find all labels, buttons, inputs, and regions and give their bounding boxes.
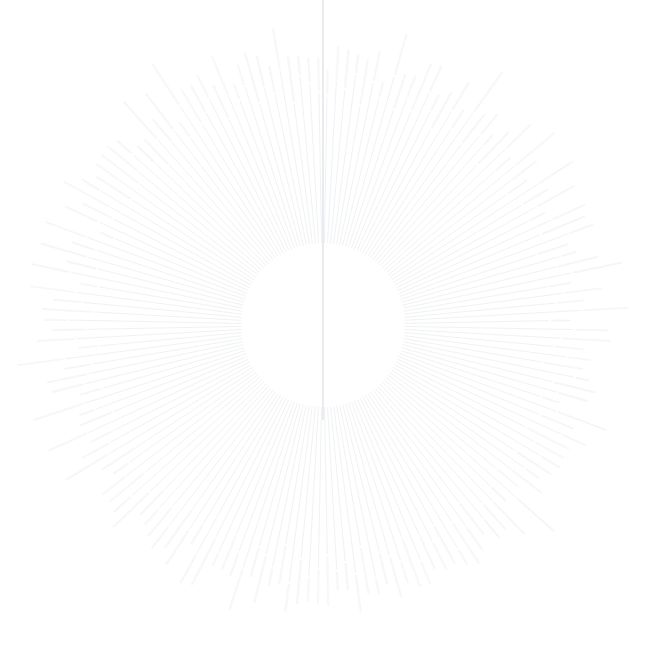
- leaf-label: aaaaaaaaaaaaaaaaaaa: [316, 57, 321, 91]
- figure-root: aaaaaaaaaaaaaaaaaaaaaaaaaaaaaaaaaaaaaaaa…: [0, 0, 658, 651]
- chart-background: [0, 0, 658, 651]
- leaf-label: aaaaaaaaaaa: [551, 318, 571, 322]
- leaf-label: aaaaaaaaaaaaaaaaaaa: [575, 327, 609, 332]
- leaf-label: aaaaaaaaaaaaaaaaaaa: [51, 327, 85, 332]
- leaf-label: aaaaaaaaaaaaaa: [325, 70, 329, 95]
- leaf-label: aaaaaaaaaaaaa: [44, 317, 67, 321]
- leaf-label: aaaaaaaaaaaaaaaaaaa: [316, 570, 321, 604]
- radial-dendrogram-chart: aaaaaaaaaaaaaaaaaaaaaaaaaaaaaaaaaaaaaaaa…: [0, 0, 658, 651]
